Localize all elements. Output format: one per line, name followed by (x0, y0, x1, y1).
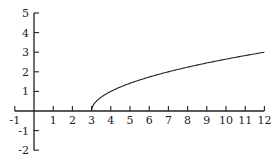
x-tick-label: 2 (69, 114, 76, 127)
x-tick-label: 1 (50, 114, 57, 127)
tick-labels: -112345678910111254321-1-2 (9, 7, 271, 157)
x-tick-label: 5 (127, 114, 134, 127)
function-plot: -112345678910111254321-1-2 (0, 0, 279, 163)
y-tick-label: 4 (22, 27, 29, 40)
y-tick-label: -2 (18, 144, 29, 157)
x-tick-label: 8 (184, 114, 191, 127)
function-curve (92, 52, 265, 111)
y-tick-label: 1 (22, 85, 29, 98)
x-tick-label: 9 (203, 114, 210, 127)
y-tick-label: -1 (18, 125, 29, 138)
y-tick-label: 5 (22, 7, 29, 20)
x-tick-label: 6 (146, 114, 153, 127)
y-tick-label: 3 (22, 46, 29, 59)
axes (15, 13, 265, 150)
x-tick-label: 12 (257, 114, 271, 127)
ticks (15, 13, 265, 150)
x-tick-label: 3 (88, 114, 95, 127)
x-tick-label: 7 (165, 114, 172, 127)
x-tick-label: 11 (238, 114, 252, 127)
x-tick-label: 10 (219, 114, 233, 127)
y-tick-label: 2 (22, 66, 29, 79)
x-tick-label: 4 (107, 114, 114, 127)
